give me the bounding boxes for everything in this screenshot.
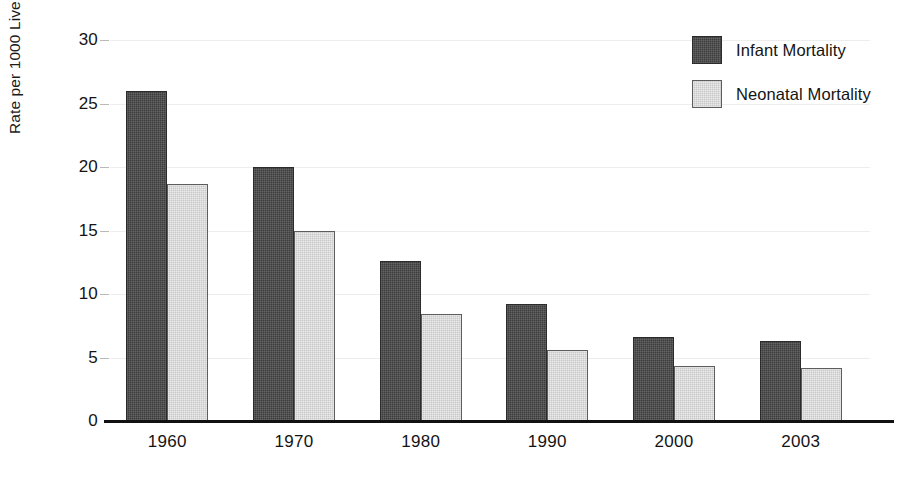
x-axis-tick-label-2003: 2003 [781,432,820,452]
y-axis-tick-label: 30 [52,30,98,50]
legend-item-infant-mortality[interactable]: Infant Mortality [692,36,912,64]
x-axis-line [104,420,894,423]
bar-infant-mortality-1970 [253,167,294,421]
x-axis-tick-label-1970: 1970 [274,432,313,452]
bar-neonatal-mortality-2003 [801,368,842,421]
bar-infant-mortality-1960 [126,91,167,421]
y-axis-tickmark [100,104,109,105]
bar-infant-mortality-1990 [506,304,547,421]
bar-neonatal-mortality-1980 [421,314,462,421]
bar-neonatal-mortality-2000 [674,366,715,421]
y-axis-tick-label: 0 [52,411,98,431]
y-axis-tick-label: 5 [52,348,98,368]
x-axis-tick-label-1960: 1960 [148,432,187,452]
y-axis-tickmark [100,167,109,168]
x-axis-tick-label-2000: 2000 [654,432,693,452]
x-axis-tick-label-1990: 1990 [528,432,567,452]
y-axis-tickmark [100,358,109,359]
bar-neonatal-mortality-1960 [167,184,208,421]
legend-item-neonatal-mortality[interactable]: Neonatal Mortality [692,80,912,108]
y-axis-tickmark [100,40,109,41]
y-axis-tickmark [100,231,109,232]
y-axis-title: Rate per 1000 Live Births [6,0,30,134]
legend-label-neonatal: Neonatal Mortality [736,85,871,104]
y-axis-tick-label: 15 [52,221,98,241]
bar-infant-mortality-1980 [380,261,421,421]
legend-swatch-icon-infant [692,36,722,64]
y-axis-tickmarks [100,40,110,421]
legend-swatch-icon-neonatal [692,80,722,108]
x-axis-tick-labels: 196019701980199020002003 [110,432,870,462]
legend-label-infant: Infant Mortality [736,41,846,60]
chart-legend: Infant Mortality Neonatal Mortality [692,36,912,124]
bar-neonatal-mortality-1990 [547,350,588,421]
bar-chart: Rate per 1000 Live Births 051015202530 1… [0,0,917,489]
bar-neonatal-mortality-1970 [294,231,335,422]
y-axis-tick-label: 25 [52,94,98,114]
y-axis-tickmark [100,294,109,295]
bar-infant-mortality-2003 [760,341,801,421]
y-axis-tick-labels: 051015202530 [42,40,98,421]
y-axis-tick-label: 20 [52,157,98,177]
bar-infant-mortality-2000 [633,337,674,421]
y-axis-tick-label: 10 [52,284,98,304]
x-axis-tick-label-1980: 1980 [401,432,440,452]
